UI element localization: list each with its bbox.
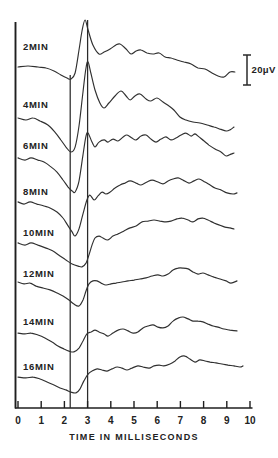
x-tick-label-9: 9 xyxy=(224,415,230,426)
x-tick-label-8: 8 xyxy=(201,415,207,426)
trace-label-8min: 8MIN xyxy=(23,186,49,197)
trace-label-4min: 4MIN xyxy=(23,99,49,110)
x-tick-label-7: 7 xyxy=(178,415,184,426)
trace-label-14min: 14MIN xyxy=(23,316,54,327)
trace-label-12min: 12MIN xyxy=(23,268,54,279)
trace-6min xyxy=(18,133,234,193)
x-tick-label-6: 6 xyxy=(154,415,160,426)
x-tick-label-4: 4 xyxy=(108,415,114,426)
x-tick-label-1: 1 xyxy=(38,415,44,426)
waveform-chart: 20μV 2MIN4MIN6MIN8MIN10MIN12MIN14MIN16MI… xyxy=(0,0,278,458)
evoked-potential-figure: 20μV 2MIN4MIN6MIN8MIN10MIN12MIN14MIN16MI… xyxy=(0,0,278,458)
scale-bar-label: 20μV xyxy=(252,64,277,75)
trace-label-6min: 6MIN xyxy=(23,140,49,151)
x-tick-label-5: 5 xyxy=(131,415,137,426)
trace-label-16min: 16MIN xyxy=(23,361,54,372)
trace-label-10min: 10MIN xyxy=(23,227,54,238)
x-tick-label-0: 0 xyxy=(15,415,21,426)
x-axis-title: TIME IN MILLISECONDS xyxy=(69,432,199,442)
trace-10min xyxy=(18,218,234,267)
x-tick-label-2: 2 xyxy=(62,415,68,426)
x-tick-label-3: 3 xyxy=(85,415,91,426)
trace-2min xyxy=(18,20,235,79)
trace-label-2min: 2MIN xyxy=(23,41,49,52)
x-tick-label-10: 10 xyxy=(244,415,256,426)
amplitude-scale-bar: 20μV xyxy=(243,55,276,85)
